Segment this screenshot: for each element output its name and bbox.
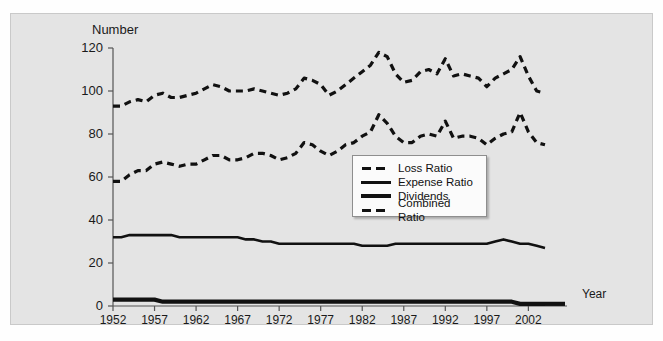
chart-figure: Number Year 020406080100120 195219571962… (0, 0, 663, 341)
y-tick-label: 80 (71, 126, 103, 141)
x-tick-label: 2002 (506, 313, 550, 327)
series-line-expense-ratio (113, 235, 545, 248)
series-line-combined-ratio (113, 52, 545, 106)
legend-swatch-icon (359, 189, 393, 203)
x-tick-label: 1982 (340, 313, 384, 327)
legend-item-combined-ratio: Combined Ratio (359, 203, 480, 217)
x-tick-label: 1997 (465, 313, 509, 327)
legend-line-sample (361, 194, 391, 198)
x-tick-label: 1957 (133, 313, 177, 327)
legend-swatch-icon (359, 175, 393, 189)
legend-line-sample (362, 167, 390, 170)
y-tick-label: 100 (71, 83, 103, 98)
series-line-dividends (113, 300, 545, 304)
y-tick-label: 120 (71, 40, 103, 55)
y-tick-label: 0 (71, 298, 103, 313)
y-axis-title: Number (92, 22, 138, 37)
x-tick-label: 1977 (299, 313, 343, 327)
legend-item-loss-ratio: Loss Ratio (359, 161, 480, 175)
x-axis-title: Year (582, 287, 606, 301)
x-tick-label: 1987 (382, 313, 426, 327)
x-tick-label: 1992 (423, 313, 467, 327)
x-tick-label: 1967 (216, 313, 260, 327)
y-tick-label: 40 (71, 212, 103, 227)
x-tick-label: 1952 (91, 313, 135, 327)
legend-item-label: Loss Ratio (398, 161, 452, 175)
y-tick-label: 60 (71, 169, 103, 184)
data-series-group (113, 52, 565, 304)
legend-swatch-icon (359, 203, 393, 217)
legend-item-label: Expense Ratio (398, 175, 473, 189)
x-tick-label: 1972 (257, 313, 301, 327)
x-tick-label: 1962 (174, 313, 218, 327)
legend-item-expense-ratio: Expense Ratio (359, 175, 480, 189)
legend-line-sample (362, 209, 390, 212)
y-tick-label: 20 (71, 255, 103, 270)
legend-item-label: Combined Ratio (398, 196, 480, 224)
legend-line-sample (361, 181, 391, 184)
legend-swatch-icon (359, 161, 393, 175)
chart-legend: Loss RatioExpense RatioDividendsCombined… (352, 155, 487, 217)
axis-lines (108, 48, 567, 311)
